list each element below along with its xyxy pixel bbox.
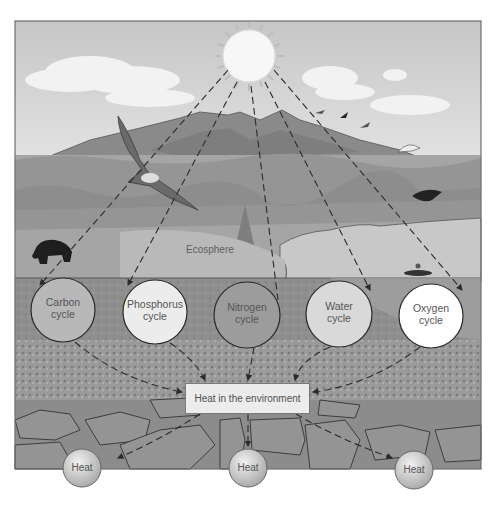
- water-cycle-title: Water: [306, 300, 372, 312]
- phosphorus-cycle-subtitle: cycle: [122, 310, 188, 322]
- carbon-cycle-title: Carbon: [30, 296, 96, 308]
- carbon-cycle-label: Carbon cycle: [30, 296, 96, 320]
- nitrogen-cycle-subtitle: cycle: [214, 313, 280, 325]
- water-cycle-subtitle: cycle: [306, 312, 372, 324]
- ecosphere-label: Ecosphere: [186, 244, 234, 256]
- nitrogen-cycle-label: Nitrogen cycle: [214, 301, 280, 325]
- heat-in-environment-box: Heat in the environment: [185, 383, 310, 414]
- oxygen-cycle-title: Oxygen: [398, 302, 464, 314]
- water-cycle-label: Water cycle: [306, 300, 372, 324]
- oxygen-cycle-subtitle: cycle: [398, 314, 464, 326]
- nitrogen-cycle-title: Nitrogen: [214, 301, 280, 313]
- heat-label-right: Heat: [395, 464, 433, 476]
- heat-label-center: Heat: [229, 462, 267, 474]
- carbon-cycle-subtitle: cycle: [30, 308, 96, 320]
- oxygen-cycle-label: Oxygen cycle: [398, 302, 464, 326]
- phosphorus-cycle-label: Phosphorus cycle: [122, 298, 188, 322]
- phosphorus-cycle-title: Phosphorus: [122, 298, 188, 310]
- heat-label-left: Heat: [63, 462, 101, 474]
- ecosphere-diagram: [0, 0, 493, 505]
